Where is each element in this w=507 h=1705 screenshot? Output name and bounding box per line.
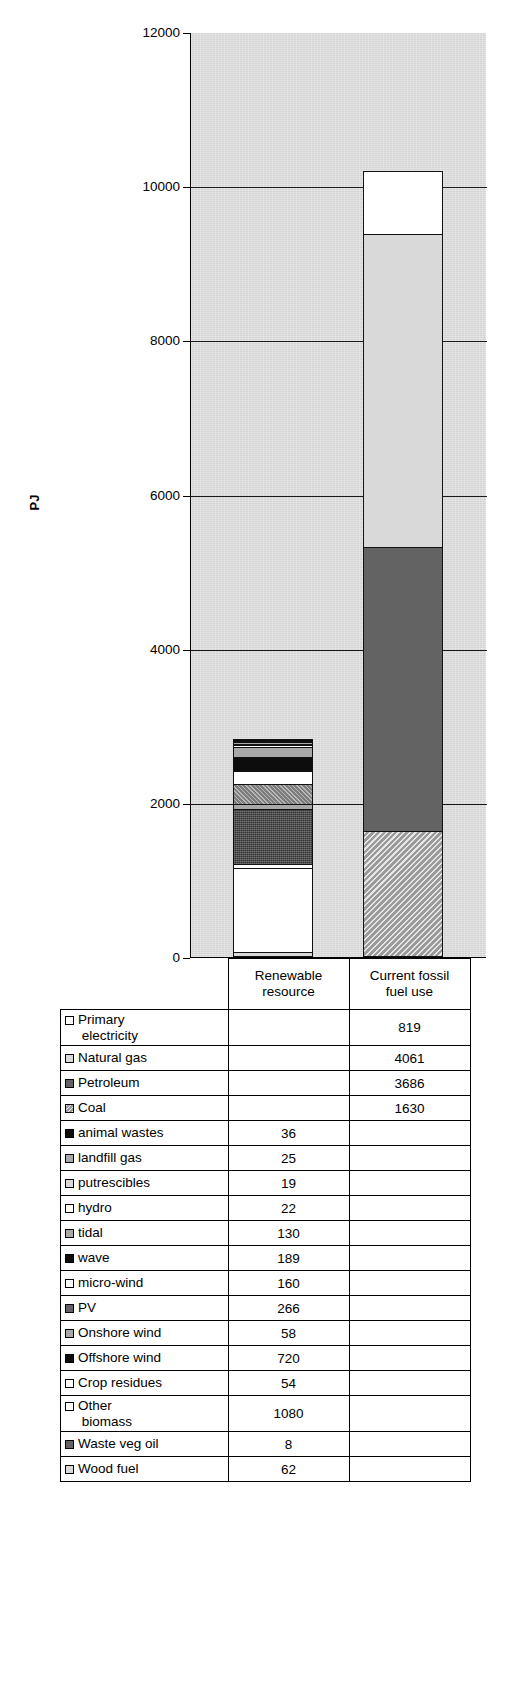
- cell-renewable-resource: 160: [228, 1271, 349, 1296]
- table-corner-cell: [61, 959, 229, 1010]
- cell-current-fossil-fuel-use: [349, 1121, 470, 1146]
- bar-renewable-resource: [233, 739, 313, 957]
- cell-renewable-resource: 58: [228, 1321, 349, 1346]
- bar-segment-hydro: [233, 745, 313, 747]
- legend-label: Other biomass: [78, 1398, 132, 1429]
- table-row: landfill gas25: [61, 1146, 471, 1171]
- legend-label: wave: [78, 1250, 110, 1266]
- bar-segment-natural-gas: [363, 234, 443, 547]
- cell-renewable-resource: 130: [228, 1221, 349, 1246]
- y-axis-tick-6000: 6000: [94, 489, 180, 503]
- cell-renewable-resource: 22: [228, 1196, 349, 1221]
- y-axis-tick-mark: [183, 650, 190, 651]
- bar-segment-wave: [233, 757, 313, 772]
- y-axis-tick-10000: 10000: [94, 180, 180, 194]
- legend-row-petroleum: Petroleum: [61, 1071, 229, 1096]
- legend-row-coal: Coal: [61, 1096, 229, 1121]
- legend-label: Petroleum: [78, 1075, 140, 1091]
- cell-current-fossil-fuel-use: [349, 1271, 470, 1296]
- bar-current-fossil-fuel-use: [363, 171, 443, 957]
- legend-swatch-icon: [65, 1279, 74, 1288]
- bar-segment-putrescibles: [233, 744, 313, 745]
- legend-row-tidal: tidal: [61, 1221, 229, 1246]
- cell-current-fossil-fuel-use: [349, 1346, 470, 1371]
- data-table: RenewableresourceCurrent fossilfuel useP…: [60, 958, 471, 1482]
- legend-label: animal wastes: [78, 1125, 164, 1141]
- column-header-line1: Renewable: [255, 968, 323, 983]
- legend-swatch-icon: [65, 1054, 74, 1063]
- bar-segment-offshore-wind: [233, 809, 313, 865]
- legend-row-primary: Primary electricity: [61, 1010, 229, 1046]
- cell-renewable-resource: 54: [228, 1371, 349, 1396]
- legend-label: micro-wind: [78, 1275, 143, 1291]
- table-row: Onshore wind58: [61, 1321, 471, 1346]
- table-header-row: RenewableresourceCurrent fossilfuel use: [61, 959, 471, 1010]
- bar-segment-coal: [363, 831, 443, 957]
- legend-label: putrescibles: [78, 1175, 150, 1191]
- cell-current-fossil-fuel-use: [349, 1171, 470, 1196]
- legend-row-natural-gas: Natural gas: [61, 1046, 229, 1071]
- table-column-header-1: Renewableresource: [228, 959, 349, 1010]
- legend-row-offshore-wind: Offshore wind: [61, 1346, 229, 1371]
- legend-label: PV: [78, 1300, 96, 1316]
- legend-swatch-icon: [65, 1179, 74, 1188]
- bar-segment-micro-wind: [233, 771, 313, 783]
- legend-swatch-icon: [65, 1304, 74, 1313]
- bar-segment-other-biomass: [233, 868, 313, 951]
- table-row: Other biomass1080: [61, 1396, 471, 1432]
- bar-segment-animal-wastes: [233, 739, 313, 742]
- plot-area: [190, 33, 486, 958]
- legend-label: Waste veg oil: [78, 1436, 159, 1452]
- cell-current-fossil-fuel-use: [349, 1457, 470, 1482]
- table-row: Offshore wind720: [61, 1346, 471, 1371]
- cell-renewable-resource: 266: [228, 1296, 349, 1321]
- legend-swatch-icon: [65, 1254, 74, 1263]
- bar-segment-petroleum: [363, 547, 443, 831]
- column-header-line2: resource: [262, 984, 315, 999]
- legend-swatch-icon: [65, 1016, 74, 1025]
- legend-row-other: Other biomass: [61, 1396, 229, 1432]
- y-axis-tick-12000: 12000: [94, 26, 180, 40]
- legend-swatch-icon: [65, 1204, 74, 1213]
- legend-swatch-icon: [65, 1465, 74, 1474]
- legend-swatch-icon: [65, 1329, 74, 1338]
- cell-renewable-resource: 1080: [228, 1396, 349, 1432]
- cell-current-fossil-fuel-use: [349, 1321, 470, 1346]
- cell-renewable-resource: 8: [228, 1432, 349, 1457]
- legend-swatch-icon: [65, 1354, 74, 1363]
- table-row: Crop residues54: [61, 1371, 471, 1396]
- table-row: Waste veg oil8: [61, 1432, 471, 1457]
- table-row: Petroleum3686: [61, 1071, 471, 1096]
- bar-segment-crop-residues: [233, 864, 313, 868]
- y-axis-tick-mark: [183, 804, 190, 805]
- chart-figure: PJ 120001000080006000400020000 Renewable…: [0, 0, 507, 1705]
- legend-label: Primary electricity: [78, 1012, 138, 1043]
- table-row: PV266: [61, 1296, 471, 1321]
- bar-segment-onshore-wind: [233, 804, 313, 808]
- legend-row-onshore-wind: Onshore wind: [61, 1321, 229, 1346]
- legend-label: Offshore wind: [78, 1350, 161, 1366]
- cell-renewable-resource: 25: [228, 1146, 349, 1171]
- y-axis-tick-mark: [183, 341, 190, 342]
- y-axis-title: PJ: [27, 483, 42, 523]
- legend-row-animal-wastes: animal wastes: [61, 1121, 229, 1146]
- cell-current-fossil-fuel-use: [349, 1371, 470, 1396]
- legend-row-hydro: hydro: [61, 1196, 229, 1221]
- cell-renewable-resource: 189: [228, 1246, 349, 1271]
- table-row: Natural gas4061: [61, 1046, 471, 1071]
- table-row: wave189: [61, 1246, 471, 1271]
- legend-row-wave: wave: [61, 1246, 229, 1271]
- legend-label: hydro: [78, 1200, 112, 1216]
- legend-row-waste-veg-oil: Waste veg oil: [61, 1432, 229, 1457]
- table-row: putrescibles19: [61, 1171, 471, 1196]
- cell-current-fossil-fuel-use: [349, 1396, 470, 1432]
- y-axis-tick-mark: [183, 33, 190, 34]
- bar-segment-landfill-gas: [233, 742, 313, 744]
- y-axis-tick-4000: 4000: [94, 643, 180, 657]
- cell-renewable-resource: [228, 1046, 349, 1071]
- legend-label: landfill gas: [78, 1150, 142, 1166]
- legend-label: Crop residues: [78, 1375, 162, 1391]
- column-header-line1: Current fossil: [370, 968, 450, 983]
- legend-label: Wood fuel: [78, 1461, 139, 1477]
- table-row: hydro22: [61, 1196, 471, 1221]
